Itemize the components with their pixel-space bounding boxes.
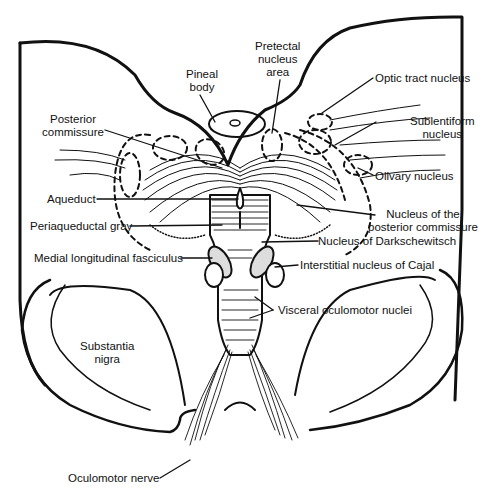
- label-periaqueductal-gray: Periaqueductal gray: [30, 220, 132, 233]
- label-sublentiform-nucleus: Sublentiform nucleus: [410, 115, 475, 141]
- pineal-body: [209, 111, 265, 137]
- label-visceral-oculomotor-nuclei: Visceral oculomotor nuclei: [278, 304, 412, 317]
- label-optic-tract-nucleus: Optic tract nucleus: [375, 72, 470, 85]
- label-substantia-nigra: Substantia nigra: [80, 340, 134, 366]
- label-medial-longitudinal-fasciculus: Medial longitudinal fasciculus: [34, 252, 183, 265]
- label-aqueduct: Aqueduct: [47, 193, 96, 206]
- label-olivary-nucleus: Olivary nucleus: [375, 170, 454, 183]
- label-nucleus-of-darkschewitsch: Nucleus of Darkschewitsch: [318, 235, 456, 248]
- midbrain-diagram: Pineal body Pretectal nucleus area Optic…: [0, 0, 490, 494]
- label-nucleus-posterior-commissure: Nucleus of the posterior commissure: [368, 208, 478, 234]
- label-posterior-commissure: Posterior commissure: [42, 113, 104, 139]
- label-interstitial-nucleus-of-cajal: Interstitial nucleus of Cajal: [300, 259, 434, 272]
- label-pineal-body: Pineal body: [186, 68, 218, 94]
- right-peduncle: [310, 270, 462, 430]
- label-oculomotor-nerve: Oculomotor nerve: [68, 472, 159, 485]
- substantia-nigra-right: [295, 277, 435, 395]
- label-pretectal-nucleus-area: Pretectal nucleus area: [255, 40, 300, 79]
- aqueduct: [237, 188, 243, 209]
